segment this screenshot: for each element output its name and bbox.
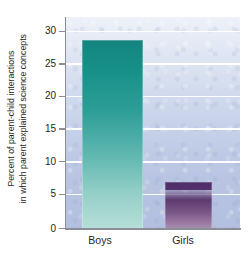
y-axis-line [65,17,67,229]
x-tick-label-girls: Girls [143,234,223,246]
x-axis-line [65,228,241,230]
y-tick-mark-20 [59,96,65,97]
y-tick-mark-10 [59,161,65,162]
y-tick-label-5: 5 [16,188,56,199]
bar-chart-figure: Percent of parent-child interactions in … [0,0,249,259]
y-tick-mark-5 [59,194,65,195]
y-tick-mark-15 [59,128,65,129]
gridline-30 [66,31,240,33]
bar-girls [165,182,212,229]
y-tick-label-10: 10 [16,156,56,167]
bar-boys [82,40,143,229]
y-tick-label-30: 30 [16,25,56,36]
y-tick-label-0: 0 [16,223,56,234]
plot-area [66,17,240,229]
y-tick-mark-0 [59,228,65,229]
y-tick-label-15: 15 [16,123,56,134]
y-tick-mark-25 [59,63,65,64]
y-tick-label-20: 20 [16,90,56,101]
y-tick-label-25: 25 [16,58,56,69]
y-tick-mark-30 [59,31,65,32]
x-tick-label-boys: Boys [60,234,140,246]
